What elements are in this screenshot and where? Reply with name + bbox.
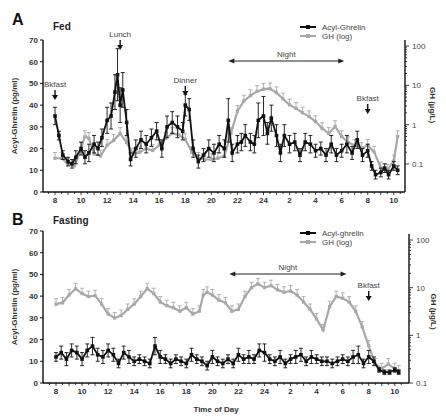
arrow-down-icon bbox=[117, 45, 123, 50]
x-tick-label: 2 bbox=[288, 387, 293, 396]
panel-letter: B bbox=[12, 211, 24, 228]
x-tick-label: 8 bbox=[365, 196, 370, 205]
y2-tick-label: 100 bbox=[416, 236, 430, 245]
y2-tick-label: 1 bbox=[412, 121, 417, 130]
y2-tick-label: 0.1 bbox=[412, 160, 424, 169]
meal-label: Dinner bbox=[174, 76, 198, 85]
y2-tick-label: 100 bbox=[412, 42, 426, 51]
y-tick-label: 10 bbox=[29, 357, 38, 366]
x-tick-label: 10 bbox=[78, 387, 87, 396]
panel-b: BFasting010203040506070Acyl-Ghrelin (pg/… bbox=[10, 211, 438, 414]
y2-axis-title: GH (µg/L) bbox=[429, 293, 438, 329]
y-axis-title: Acyl-Ghrelin (pg/ml) bbox=[10, 77, 19, 154]
legend-label: Acyl-ghrelin bbox=[322, 229, 364, 238]
meal-label: Bkfast bbox=[357, 94, 380, 103]
x-tick-label: 24 bbox=[260, 387, 269, 396]
arrow-left-icon bbox=[228, 59, 234, 64]
y-axis-title: Acyl-Ghrelin (pg/ml) bbox=[10, 268, 19, 345]
x-tick-label: 20 bbox=[208, 387, 217, 396]
y-tick-label: 40 bbox=[29, 101, 38, 110]
x-axis-title: Time of Day bbox=[193, 405, 239, 414]
y-tick-label: 50 bbox=[29, 79, 38, 88]
y-tick-label: 0 bbox=[34, 379, 39, 388]
x-tick-label: 12 bbox=[103, 196, 112, 205]
x-tick-label: 4 bbox=[314, 387, 319, 396]
legend-label: GH (log) bbox=[322, 32, 353, 41]
y2-tick-label: 10 bbox=[416, 284, 425, 293]
x-tick-label: 16 bbox=[155, 196, 164, 205]
y-tick-label: 0 bbox=[34, 188, 39, 197]
x-tick-label: 16 bbox=[156, 387, 165, 396]
y-tick-label: 60 bbox=[29, 249, 38, 258]
x-tick-label: 6 bbox=[340, 387, 345, 396]
x-tick-label: 2 bbox=[287, 196, 292, 205]
panel-a: AFed010203040506070Acyl-Ghrelin (pg/ml)8… bbox=[10, 11, 437, 205]
x-tick-label: 8 bbox=[54, 387, 59, 396]
arrow-down-icon bbox=[366, 296, 372, 301]
x-tick-label: 22 bbox=[233, 196, 242, 205]
figure: AFed010203040506070Acyl-Ghrelin (pg/ml)8… bbox=[0, 0, 446, 416]
meal-label: Lunch bbox=[109, 30, 131, 39]
x-tick-label: 4 bbox=[313, 196, 318, 205]
y-tick-label: 70 bbox=[29, 36, 38, 45]
y2-tick-label: 0.1 bbox=[416, 379, 428, 388]
x-tick-label: 10 bbox=[77, 196, 86, 205]
y-tick-label: 70 bbox=[29, 227, 38, 236]
x-tick-label: 6 bbox=[339, 196, 344, 205]
x-tick-label: 12 bbox=[104, 387, 113, 396]
y2-tick-label: 10 bbox=[412, 81, 421, 90]
x-tick-label: 18 bbox=[181, 196, 190, 205]
x-tick-label: 14 bbox=[129, 196, 138, 205]
meal-label: Bkfast bbox=[44, 80, 67, 89]
x-tick-label: 8 bbox=[366, 387, 371, 396]
y-tick-label: 50 bbox=[29, 270, 38, 279]
x-tick-label: 14 bbox=[130, 387, 139, 396]
night-label: Night bbox=[277, 50, 296, 59]
y-tick-label: 60 bbox=[29, 58, 38, 67]
y-tick-label: 40 bbox=[29, 292, 38, 301]
series-ghrelin-line bbox=[55, 75, 398, 175]
arrow-left-icon bbox=[229, 272, 235, 277]
x-tick-label: 18 bbox=[182, 387, 191, 396]
arrow-down-icon bbox=[52, 95, 58, 100]
y-tick-label: 20 bbox=[29, 336, 38, 345]
y-tick-label: 10 bbox=[29, 166, 38, 175]
night-label: Night bbox=[279, 263, 298, 272]
panel-letter: A bbox=[12, 11, 24, 28]
x-tick-label: 8 bbox=[53, 196, 58, 205]
arrow-down-icon bbox=[182, 91, 188, 96]
arrow-right-icon bbox=[341, 272, 347, 277]
panel-title: Fed bbox=[53, 21, 71, 32]
arrow-right-icon bbox=[338, 59, 344, 64]
legend-label: Acyl-Ghrelin bbox=[322, 23, 366, 32]
y-tick-label: 20 bbox=[29, 145, 38, 154]
panel-title: Fasting bbox=[53, 215, 89, 226]
x-tick-label: 10 bbox=[389, 196, 398, 205]
x-tick-label: 20 bbox=[207, 196, 216, 205]
y2-axis-title: GH (µg/L) bbox=[428, 87, 437, 123]
y-tick-label: 30 bbox=[29, 123, 38, 132]
x-tick-label: 24 bbox=[259, 196, 268, 205]
x-tick-label: 22 bbox=[234, 387, 243, 396]
y-tick-label: 30 bbox=[29, 314, 38, 323]
meal-label: Bkfast bbox=[358, 281, 381, 290]
x-tick-label: 10 bbox=[390, 387, 399, 396]
arrow-down-icon bbox=[365, 109, 371, 114]
y2-tick-label: 1 bbox=[416, 331, 421, 340]
legend-label: GH (log) bbox=[322, 238, 353, 247]
